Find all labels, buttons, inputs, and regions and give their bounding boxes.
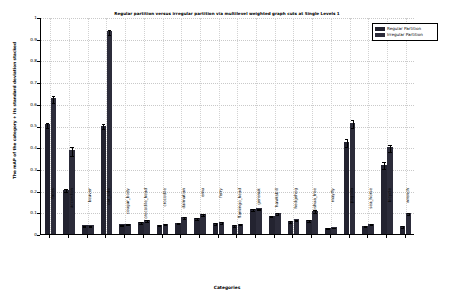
gridline-horizontal bbox=[41, 148, 414, 149]
y-tick-mark bbox=[37, 61, 40, 62]
error-bar-cap bbox=[401, 228, 404, 229]
error-bar-cap bbox=[52, 96, 55, 97]
x-tick-label: flamingo_head bbox=[238, 188, 243, 240]
gridline-horizontal bbox=[41, 40, 414, 41]
error-bar-cap bbox=[108, 35, 111, 36]
error-bar-cap bbox=[388, 145, 391, 146]
error-bar-cap bbox=[46, 123, 49, 124]
y-tick-label: 0.4 bbox=[21, 146, 37, 150]
gridline-horizontal bbox=[41, 61, 414, 62]
x-tick-label: hawksbill bbox=[275, 188, 280, 240]
error-bar bbox=[347, 139, 348, 147]
gridline-horizontal bbox=[41, 192, 414, 193]
error-bar-cap bbox=[351, 128, 354, 129]
x-tick-label: cougar_body bbox=[126, 188, 131, 240]
x-tick-label: gerenuk bbox=[257, 188, 262, 240]
bar-regular[interactable] bbox=[45, 124, 51, 234]
error-bar-cap bbox=[102, 124, 105, 125]
error-bar-cap bbox=[46, 128, 49, 129]
x-tick-label: emu bbox=[201, 188, 206, 240]
error-bar-cap bbox=[139, 224, 142, 225]
x-tick-label: crocodile_head bbox=[144, 188, 149, 240]
y-tick-mark bbox=[37, 148, 40, 149]
y-axis-label: The mAP of the category + its standard d… bbox=[12, 21, 17, 201]
error-bar bbox=[72, 147, 73, 157]
y-tick-mark bbox=[37, 83, 40, 84]
error-bar-cap bbox=[177, 224, 180, 225]
y-tick-label: 0.7 bbox=[21, 81, 37, 85]
x-tick-mark bbox=[124, 235, 125, 238]
x-tick-label: wrench bbox=[406, 188, 411, 240]
x-tick-label: car_side bbox=[107, 188, 112, 240]
x-tick-label: bicycle bbox=[388, 188, 393, 240]
x-tick-label: accordion bbox=[70, 188, 75, 240]
plot-area bbox=[40, 18, 414, 235]
legend-swatch-irregular-icon bbox=[375, 33, 385, 37]
y-tick-label: 0.9 bbox=[21, 38, 37, 42]
y-tick-label: 0.2 bbox=[21, 190, 37, 194]
error-bar-cap bbox=[52, 103, 55, 104]
y-tick-label: 0.1 bbox=[21, 211, 37, 215]
y-tick-mark bbox=[37, 213, 40, 214]
y-tick-label: 0.6 bbox=[21, 103, 37, 107]
error-bar-cap bbox=[345, 147, 348, 148]
x-tick-mark bbox=[68, 235, 69, 238]
error-bar-cap bbox=[70, 147, 73, 148]
error-bar-cap bbox=[70, 156, 73, 157]
error-bar-cap bbox=[326, 229, 329, 230]
y-tick-label: 0.8 bbox=[21, 59, 37, 63]
error-bar-cap bbox=[351, 120, 354, 121]
y-tick-label: 0 bbox=[21, 233, 37, 237]
error-bar-cap bbox=[120, 226, 123, 227]
error-bar bbox=[353, 120, 354, 128]
error-bar-cap bbox=[289, 223, 292, 224]
error-bar-cap bbox=[64, 189, 67, 190]
error-bar-cap bbox=[345, 139, 348, 140]
bar-regular[interactable] bbox=[101, 126, 107, 235]
x-tick-label: hedgehog bbox=[294, 188, 299, 240]
x-tick-label: pagoda bbox=[350, 188, 355, 240]
error-bar-cap bbox=[64, 192, 67, 193]
x-tick-label: crocodile bbox=[163, 188, 168, 240]
y-tick-mark bbox=[37, 105, 40, 106]
x-tick-label: joshua_tree bbox=[313, 188, 318, 240]
bar-regular[interactable] bbox=[381, 165, 387, 234]
legend-label-irregular: Irregular Partition bbox=[387, 33, 423, 37]
error-bar-cap bbox=[364, 227, 367, 228]
legend-label-regular: Regular Partition bbox=[387, 27, 421, 31]
x-tick-label: beaver bbox=[88, 188, 93, 240]
x-tick-mark bbox=[386, 235, 387, 238]
chart-figure: Regular partition versus irregular parti… bbox=[0, 0, 454, 300]
error-bar-cap bbox=[251, 211, 254, 212]
x-tick-mark bbox=[199, 235, 200, 238]
error-bar-cap bbox=[270, 217, 273, 218]
gridline-horizontal bbox=[41, 213, 414, 214]
y-tick-mark bbox=[37, 127, 40, 128]
error-bar bbox=[390, 145, 391, 152]
x-tick-label: sea_horse bbox=[369, 188, 374, 240]
error-bar-cap bbox=[102, 129, 105, 130]
error-bar-cap bbox=[233, 227, 236, 228]
y-tick-mark bbox=[37, 192, 40, 193]
x-tick-label: mayfly bbox=[331, 188, 336, 240]
error-bar-cap bbox=[195, 220, 198, 221]
gridline-horizontal bbox=[41, 83, 414, 84]
x-tick-label: faces bbox=[51, 188, 56, 240]
error-bar-cap bbox=[108, 30, 111, 31]
error-bar-cap bbox=[83, 227, 86, 228]
y-tick-mark bbox=[37, 40, 40, 41]
y-tick-mark bbox=[37, 170, 40, 171]
x-tick-label: ferry bbox=[219, 188, 224, 240]
error-bar-cap bbox=[214, 225, 217, 226]
legend-item-irregular[interactable]: Irregular Partition bbox=[375, 32, 435, 38]
legend-swatch-regular-icon bbox=[375, 27, 385, 31]
bar-regular[interactable] bbox=[250, 209, 256, 234]
error-bar-cap bbox=[158, 226, 161, 227]
error-bar-cap bbox=[382, 169, 385, 170]
x-tick-mark bbox=[255, 235, 256, 238]
gridline-horizontal bbox=[41, 170, 414, 171]
gridline-horizontal bbox=[41, 105, 414, 106]
chart-legend: Regular Partition Irregular Partition bbox=[372, 23, 438, 41]
y-tick-mark bbox=[37, 235, 40, 236]
x-tick-mark bbox=[311, 235, 312, 238]
